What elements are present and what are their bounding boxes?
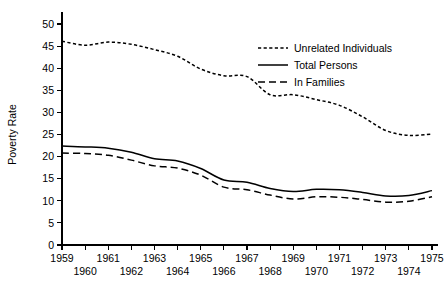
y-tick-label: 30 <box>42 106 54 118</box>
series-line-total-persons <box>62 146 432 196</box>
x-tick-label: 1964 <box>166 265 190 277</box>
x-tick-label: 1974 <box>397 265 421 277</box>
legend-label-dashed: In Families <box>294 76 345 88</box>
x-tick-label: 1975 <box>420 252 444 264</box>
y-axis-title: Poverty Rate <box>6 104 18 165</box>
x-tick-label: 1973 <box>374 252 398 264</box>
series-line-unrelated-individuals <box>62 41 432 135</box>
x-tick-label: 1969 <box>282 252 306 264</box>
x-tick-label: 1961 <box>97 252 121 264</box>
y-tick-label: 5 <box>48 217 54 229</box>
x-tick-label: 1963 <box>143 252 167 264</box>
y-tick-label: 15 <box>42 172 54 184</box>
legend-label-solid: Total Persons <box>294 59 358 71</box>
x-tick-label: 1968 <box>258 265 282 277</box>
x-tick-label: 1965 <box>189 252 213 264</box>
legend-label-dotted: Unrelated Individuals <box>294 42 392 54</box>
y-tick-label: 40 <box>42 62 54 74</box>
x-tick-label: 1967 <box>235 252 259 264</box>
x-tick-label: 1959 <box>50 252 74 264</box>
x-tick-label: 1971 <box>328 252 352 264</box>
y-tick-label: 45 <box>42 40 54 52</box>
y-tick-label: 50 <box>42 18 54 30</box>
x-tick-label: 1972 <box>351 265 375 277</box>
y-tick-label: 0 <box>48 239 54 251</box>
y-tick-label: 25 <box>42 128 54 140</box>
x-tick-label: 1960 <box>73 265 97 277</box>
x-tick-label: 1970 <box>305 265 329 277</box>
chart-canvas: 0510152025303540455019591960196119621963… <box>0 0 446 281</box>
poverty-rate-chart: 0510152025303540455019591960196119621963… <box>0 0 446 281</box>
x-tick-label: 1962 <box>120 265 144 277</box>
y-tick-label: 10 <box>42 195 54 207</box>
x-tick-label: 1966 <box>212 265 236 277</box>
y-tick-label: 35 <box>42 84 54 96</box>
y-tick-label: 20 <box>42 150 54 162</box>
